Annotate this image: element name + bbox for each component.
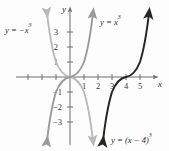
svg-text:y = x3: y = x3 xyxy=(99,14,121,27)
curve-label-shifted-cubic: y = (x − 4)3 xyxy=(110,132,152,145)
curve-label-shifted-cubic-exponent: 3 xyxy=(148,132,152,138)
curve-label-shifted-cubic-text: y = (x − 4) xyxy=(110,135,149,145)
x-tick-label-4: 4 xyxy=(124,81,129,91)
curve-label-positive-cubic-text: y = x xyxy=(99,17,118,27)
curve-label-positive-cubic-exponent: 3 xyxy=(117,14,121,20)
x-axis-label: x xyxy=(157,79,162,89)
svg-text:y = −x3: y = −x3 xyxy=(4,22,32,35)
y-tick-label-2: 2 xyxy=(54,42,58,52)
x-tick-label-2: 2 xyxy=(96,81,100,91)
graph-canvas: 1 2 3 4 5 3 2 1 −1 −2 −3 y x y = −x3 xyxy=(0,0,169,151)
y-tick-label-neg3: −3 xyxy=(53,117,62,127)
y-axis-label: y xyxy=(61,4,66,14)
curve-label-negative-cubic-exponent: 3 xyxy=(28,22,32,28)
axes-group xyxy=(16,9,156,145)
curve-label-negative-cubic: y = −x3 xyxy=(4,22,32,35)
curve-label-positive-cubic: y = x3 xyxy=(99,14,121,27)
cubic-functions-figure: 1 2 3 4 5 3 2 1 −1 −2 −3 y x y = −x3 xyxy=(0,0,169,151)
curve-label-negative-cubic-text: y = −x xyxy=(4,25,29,35)
y-tick-label-3: 3 xyxy=(54,27,58,37)
x-tick-label-5: 5 xyxy=(138,81,142,91)
y-tick-label-neg2: −2 xyxy=(53,102,62,112)
svg-text:y = (x − 4)3: y = (x − 4)3 xyxy=(110,132,152,145)
